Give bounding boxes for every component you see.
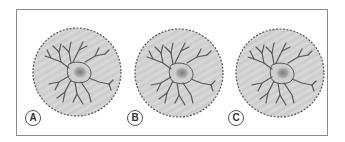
panel-b-disc: [135, 29, 223, 117]
panel-c-disc: [236, 29, 324, 117]
panel-label-a: A: [25, 110, 41, 126]
panel-label-b: B: [127, 110, 143, 126]
panel-label-c: C: [228, 110, 244, 126]
neuron-figure: [0, 0, 345, 142]
panel-a-disc: [33, 28, 121, 116]
